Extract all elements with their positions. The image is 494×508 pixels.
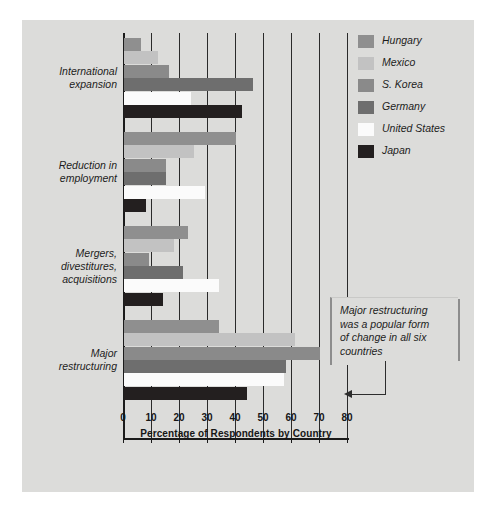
legend-swatch-icon (358, 35, 374, 48)
bar (124, 65, 169, 78)
annotation-line: was a popular form (340, 318, 451, 332)
bar (124, 279, 219, 292)
category-label-line: International (7, 65, 117, 78)
annotation-arrow-icon (344, 390, 352, 398)
annotation-line: countries (340, 345, 451, 359)
bar (124, 293, 163, 306)
legend-item-united-states[interactable]: United States (358, 121, 474, 143)
legend-swatch-icon (358, 101, 374, 114)
bar (124, 226, 188, 239)
legend-label: Japan (382, 144, 411, 156)
annotation-leader-horizontal (351, 394, 386, 395)
gridline (319, 33, 320, 438)
bar (124, 360, 286, 373)
x-axis-tick-label: 80 (327, 412, 367, 423)
annotation-leader-vertical (385, 361, 386, 395)
annotation-callout: Major restructuringwas a popular formof … (330, 297, 458, 365)
bar (124, 78, 253, 91)
category-label-line: divestitures, (7, 260, 117, 273)
x-axis-title: Percentage of Respondents by Country (123, 428, 349, 439)
gridline (291, 33, 292, 438)
bar (124, 92, 191, 105)
legend-swatch-icon (358, 57, 374, 70)
legend-item-hungary[interactable]: Hungary (358, 33, 474, 55)
category-label: Internationalexpansion (7, 65, 117, 91)
legend-label: United States (382, 122, 445, 134)
annotation-line: of change in all six (340, 331, 451, 345)
bar (124, 387, 247, 400)
legend-swatch-icon (358, 79, 374, 92)
legend-item-mexico[interactable]: Mexico (358, 55, 474, 77)
bar (124, 159, 166, 172)
category-label-line: restructuring (7, 360, 117, 373)
legend-label: S. Korea (382, 78, 423, 90)
gridline (347, 33, 348, 438)
bar (124, 132, 236, 145)
legend-item-germany[interactable]: Germany (358, 99, 474, 121)
category-label: Majorrestructuring (7, 347, 117, 373)
chart-legend: HungaryMexicoS. KoreaGermanyUnited State… (358, 33, 474, 165)
bar (124, 347, 320, 360)
bar (124, 333, 295, 346)
legend-item-japan[interactable]: Japan (358, 143, 474, 165)
legend-label: Hungary (382, 34, 422, 46)
bar (124, 172, 166, 185)
annotation-line: Major restructuring (340, 304, 451, 318)
category-label-line: Major (7, 347, 117, 360)
category-label: Reduction inemployment (7, 159, 117, 185)
bar (124, 266, 183, 279)
bar (124, 105, 242, 118)
chart-figure: InternationalexpansionReduction inemploy… (0, 0, 494, 508)
plot-area (123, 33, 347, 440)
category-axis-labels: InternationalexpansionReduction inemploy… (0, 33, 117, 440)
bar (124, 320, 219, 333)
bar (124, 239, 174, 252)
category-label-line: expansion (7, 78, 117, 91)
legend-label: Mexico (382, 56, 415, 68)
bar (124, 38, 141, 51)
bar (124, 199, 146, 212)
bar (124, 253, 149, 266)
legend-swatch-icon (358, 123, 374, 136)
bar (124, 186, 205, 199)
legend-item-s-korea[interactable]: S. Korea (358, 77, 474, 99)
bar (124, 373, 284, 386)
bar (124, 145, 194, 158)
legend-swatch-icon (358, 145, 374, 158)
bar (124, 51, 158, 64)
category-label-line: employment (7, 172, 117, 185)
category-label-line: Reduction in (7, 159, 117, 172)
category-label: Mergers,divestitures,acquisitions (7, 247, 117, 286)
annotation-text: Major restructuringwas a popular formof … (340, 304, 451, 358)
category-label-line: Mergers, (7, 247, 117, 260)
category-label-line: acquisitions (7, 273, 117, 286)
legend-label: Germany (382, 100, 425, 112)
